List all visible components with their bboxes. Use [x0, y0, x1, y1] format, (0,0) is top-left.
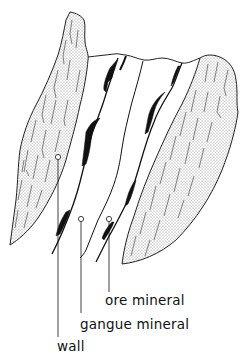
right-wall-rock	[122, 55, 238, 264]
wall-label: wall	[57, 340, 85, 354]
leader-lines	[55, 154, 111, 337]
gangue-mineral-label: gangue mineral	[80, 318, 189, 332]
wall-leader-marker	[55, 154, 60, 159]
ore-leader-marker	[106, 216, 111, 221]
left-wall-rock	[10, 12, 88, 245]
gangue-leader-marker	[78, 216, 83, 221]
ore-mineral-label: ore mineral	[105, 294, 185, 308]
vein-top-outline	[88, 54, 200, 63]
